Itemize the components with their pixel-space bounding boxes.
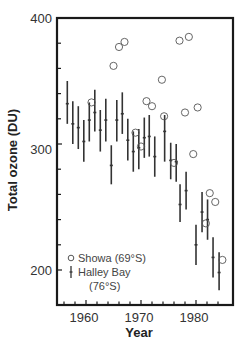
x-tick-label-1970: 1970 <box>125 310 154 325</box>
halley-bay-data-point <box>104 99 107 142</box>
halley-bay-data-point <box>66 81 69 124</box>
halley-bay-data-point <box>126 119 129 161</box>
halley-bay-data-point <box>110 145 113 184</box>
halley-bay-data-point <box>121 92 124 134</box>
showa-data-point <box>181 109 188 116</box>
showa-data-point <box>212 198 219 205</box>
legend-halley-latitude: (76°S) <box>89 280 120 292</box>
halley-bay-data-point <box>185 172 188 210</box>
halley-bay-data-point <box>77 106 80 149</box>
showa-data-point <box>190 150 197 157</box>
halley-bay-data-point <box>88 102 91 141</box>
showa-series <box>88 33 226 263</box>
showa-data-point <box>121 38 128 45</box>
halley-bay-data-point <box>212 237 215 277</box>
halley-bay-data-point <box>93 90 96 132</box>
showa-data-point <box>110 62 117 69</box>
halley-bay-data-point <box>132 131 135 171</box>
halley-bay-data-point <box>143 118 146 158</box>
halley-bay-data-point <box>179 184 182 222</box>
halley-bay-data-point <box>71 101 74 144</box>
showa-data-point <box>194 104 201 111</box>
halley-bay-data-point <box>153 136 156 176</box>
x-tick-label-1960: 1960 <box>70 310 99 325</box>
y-tick-label-300: 300 <box>30 142 52 157</box>
legend: Showa (69°S) Halley Bay (76°S) <box>68 252 146 292</box>
y-axis-title: Total ozone (DU) <box>5 109 20 211</box>
halley-bay-data-point <box>195 225 198 265</box>
showa-data-point <box>206 190 213 197</box>
x-tick-label-1980: 1980 <box>180 310 209 325</box>
showa-data-point <box>158 76 165 83</box>
halley-bay-data-point <box>163 115 166 162</box>
y-tick-label-200: 200 <box>30 263 52 278</box>
legend-showa-label: Showa (69°S) <box>78 252 146 264</box>
y-tick-label-400: 400 <box>30 11 52 26</box>
ozone-chart: 400 300 200 1960 1970 1980 Year Total oz… <box>0 0 240 342</box>
showa-legend-marker-icon <box>68 255 74 261</box>
showa-data-point <box>202 220 209 227</box>
halley-bay-data-point <box>115 100 118 142</box>
x-axis-title: Year <box>125 325 152 340</box>
showa-data-point <box>176 37 183 44</box>
halley-bay-data-point <box>148 115 151 157</box>
showa-data-point <box>148 103 155 110</box>
legend-halley-label: Halley Bay <box>78 266 131 278</box>
showa-data-point <box>185 33 192 40</box>
halley-bay-data-point <box>99 110 102 152</box>
halley-bay-data-point <box>82 120 85 162</box>
